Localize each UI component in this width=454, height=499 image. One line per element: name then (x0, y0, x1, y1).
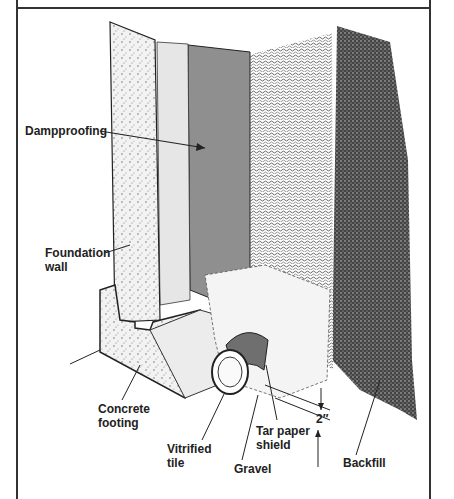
dampproofing-label: Dampproofing (25, 124, 107, 138)
dimension-label: 2″ (316, 412, 328, 426)
dampproofing-layer (188, 45, 250, 300)
foundation-wall-label: Foundation wall (45, 246, 110, 274)
wall-face (157, 42, 190, 305)
backfill-region (332, 26, 417, 420)
backfill-label: Backfill (343, 456, 386, 470)
concrete-footing-label: Concrete footing (98, 402, 150, 430)
tar-paper-shield-label: Tar paper shield (256, 424, 310, 452)
foundation-wall-region (110, 22, 160, 322)
gravel-label: Gravel (234, 462, 271, 476)
vitrified-tile-label: Vitrified tile (167, 442, 211, 470)
